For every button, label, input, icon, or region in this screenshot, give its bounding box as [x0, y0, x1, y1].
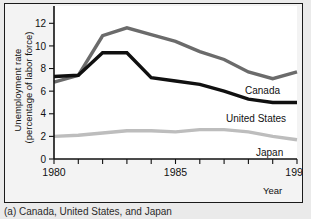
x-axis-title: Year	[263, 185, 282, 196]
series-label-united-states: United States	[226, 113, 286, 124]
figure-container: 024681012 198019851990 CanadaUnited Stat…	[0, 0, 311, 219]
y-tick-label: 8	[40, 63, 46, 74]
y-axis-title-line1: Unemployment rate	[12, 49, 23, 132]
x-tick-label: 1980	[42, 166, 66, 178]
series-label-japan: Japan	[256, 147, 283, 158]
chart-panel: 024681012 198019851990 CanadaUnited Stat…	[4, 3, 303, 203]
x-tick-label: 1990	[285, 166, 303, 178]
y-axis-title-line2: (percentage of labor force)	[23, 32, 34, 144]
y-tick-label: 0	[40, 154, 46, 165]
y-tick-label: 2	[40, 131, 46, 142]
y-tick-label: 12	[35, 18, 47, 29]
series-label-canada: Canada	[245, 85, 280, 96]
y-tick-label: 10	[35, 41, 47, 52]
y-tick-label: 6	[40, 86, 46, 97]
plot-area: 024681012 198019851990 CanadaUnited Stat…	[5, 4, 303, 203]
figure-caption: (a) Canada, United States, and Japan	[4, 206, 304, 219]
x-tick-label: 1985	[164, 166, 188, 178]
y-tick-label: 4	[40, 108, 46, 119]
line-chart: 024681012 198019851990 CanadaUnited Stat…	[5, 4, 303, 203]
